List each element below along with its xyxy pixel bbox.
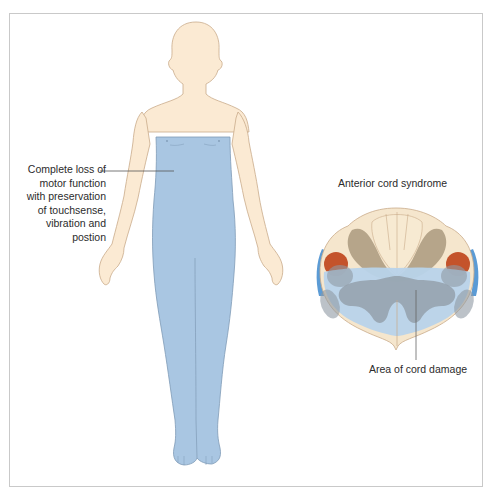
illustration <box>0 0 495 498</box>
right-arm <box>232 112 283 285</box>
head <box>139 22 249 132</box>
left-arm <box>99 112 150 285</box>
damage-label: Area of cord damage <box>369 363 489 377</box>
motor-loss-annotation: Complete loss of motor function with pre… <box>14 163 106 245</box>
cord-cross-section <box>316 208 478 360</box>
body-figure <box>99 22 283 465</box>
cross-section-title: Anterior cord syndrome <box>338 177 478 191</box>
affected-region <box>153 137 236 465</box>
